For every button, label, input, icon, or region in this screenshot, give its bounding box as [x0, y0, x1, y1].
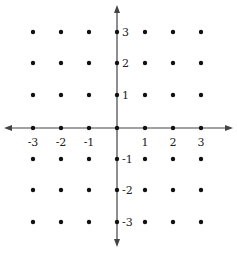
lattice-point: [143, 188, 147, 192]
lattice-point: [59, 30, 63, 34]
y-tick-label: 3: [122, 26, 129, 39]
lattice-point: [143, 93, 147, 97]
arrow-right-icon: [225, 125, 233, 131]
lattice-point: [59, 188, 63, 192]
x-tick-label: -2: [56, 136, 67, 149]
axes: [4, 5, 233, 247]
lattice-point: [59, 220, 63, 224]
x-tick-label: -3: [28, 136, 39, 149]
lattice-point: [87, 188, 91, 192]
lattice-point: [143, 220, 147, 224]
lattice-point: [87, 126, 91, 130]
lattice-point: [115, 93, 119, 97]
y-tick-label: -2: [122, 184, 133, 197]
x-tick-label: 1: [142, 136, 149, 149]
y-tick-label: 2: [122, 57, 129, 70]
lattice-point: [59, 126, 63, 130]
lattice-point: [143, 30, 147, 34]
lattice-point: [171, 126, 175, 130]
y-tick-label: 1: [122, 89, 129, 102]
lattice-point: [199, 220, 203, 224]
lattice-point: [199, 30, 203, 34]
lattice-point: [199, 93, 203, 97]
x-tick-label: -1: [84, 136, 95, 149]
lattice-point: [115, 220, 119, 224]
lattice-point: [171, 30, 175, 34]
lattice-point: [143, 61, 147, 65]
lattice-point: [87, 93, 91, 97]
y-tick-label: -3: [122, 216, 133, 229]
lattice-point: [171, 220, 175, 224]
lattice-diagram: -3-2-1123 321-1-2-3: [0, 0, 237, 256]
lattice-point: [171, 157, 175, 161]
lattice-point: [143, 126, 147, 130]
y-tick-label: -1: [122, 153, 133, 166]
lattice-point: [115, 188, 119, 192]
lattice-point: [59, 61, 63, 65]
x-axis-labels: -3-2-1123: [28, 136, 205, 149]
lattice-point: [115, 61, 119, 65]
lattice-point: [171, 93, 175, 97]
lattice-point: [143, 157, 147, 161]
lattice-point: [199, 126, 203, 130]
x-tick-label: 3: [198, 136, 205, 149]
lattice-point: [171, 188, 175, 192]
lattice-point: [87, 157, 91, 161]
lattice-point: [171, 61, 175, 65]
arrow-up-icon: [114, 5, 120, 13]
lattice-point: [199, 157, 203, 161]
lattice-point: [59, 93, 63, 97]
lattice-point: [31, 30, 35, 34]
lattice-point: [59, 157, 63, 161]
lattice-point: [87, 220, 91, 224]
lattice-point: [115, 126, 119, 130]
lattice-point: [31, 220, 35, 224]
lattice-point: [87, 61, 91, 65]
lattice-point: [115, 157, 119, 161]
lattice-point: [31, 157, 35, 161]
lattice-point: [31, 126, 35, 130]
arrow-down-icon: [114, 239, 120, 247]
x-tick-label: 2: [170, 136, 177, 149]
lattice-point: [199, 188, 203, 192]
lattice-point: [31, 93, 35, 97]
lattice-point: [87, 30, 91, 34]
lattice-point: [115, 30, 119, 34]
lattice-point: [31, 61, 35, 65]
diagram-svg: -3-2-1123 321-1-2-3: [0, 0, 237, 256]
arrow-left-icon: [4, 125, 12, 131]
lattice-point: [31, 188, 35, 192]
lattice-point: [199, 61, 203, 65]
